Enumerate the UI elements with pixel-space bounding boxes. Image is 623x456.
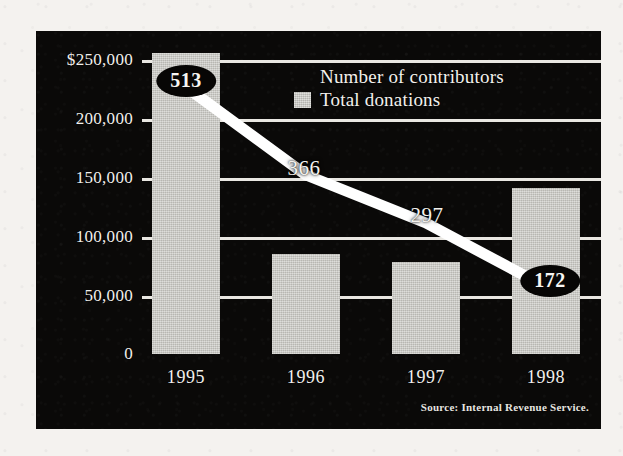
y-axis-tick-0: 0 [36, 344, 142, 364]
data-label-1998: 172 [522, 267, 578, 295]
data-label-1995: 513 [158, 67, 214, 95]
source-attribution: Source: Internal Revenue Service. [421, 401, 589, 413]
legend-item-donations: Total donations [294, 88, 504, 111]
bar-1995 [152, 53, 220, 354]
x-axis-tick-1997: 1997 [392, 367, 460, 388]
y-axis-tick-250000: $250,000 [36, 50, 142, 70]
contributors-polyline [186, 87, 546, 287]
legend-item-contributors: Number of contributors [294, 65, 504, 88]
legend-label-donations: Total donations [320, 89, 440, 111]
x-axis-tick-1998: 1998 [512, 367, 580, 388]
legend-label-contributors: Number of contributors [320, 66, 504, 88]
y-axis-tick-50000: 50,000 [36, 286, 142, 306]
chart-legend: Number of contributors Total donations [294, 65, 504, 111]
data-label-1996: 366 [288, 156, 321, 181]
legend-swatch-bar-icon [294, 92, 311, 108]
legend-swatch-line-icon [294, 69, 311, 85]
data-label-1997: 297 [411, 203, 444, 228]
x-axis-tick-1996: 1996 [272, 367, 340, 388]
y-axis-tick-200000: 200,000 [36, 109, 142, 129]
chart-figure: $250,000 200,000 150,000 100,000 50,000 … [0, 0, 623, 456]
y-axis-tick-150000: 150,000 [36, 168, 142, 188]
bar-1996 [272, 254, 340, 354]
y-axis-tick-100000: 100,000 [36, 227, 142, 247]
bar-1997 [392, 262, 460, 354]
x-axis-tick-1995: 1995 [152, 367, 220, 388]
chart-panel: $250,000 200,000 150,000 100,000 50,000 … [36, 31, 601, 429]
